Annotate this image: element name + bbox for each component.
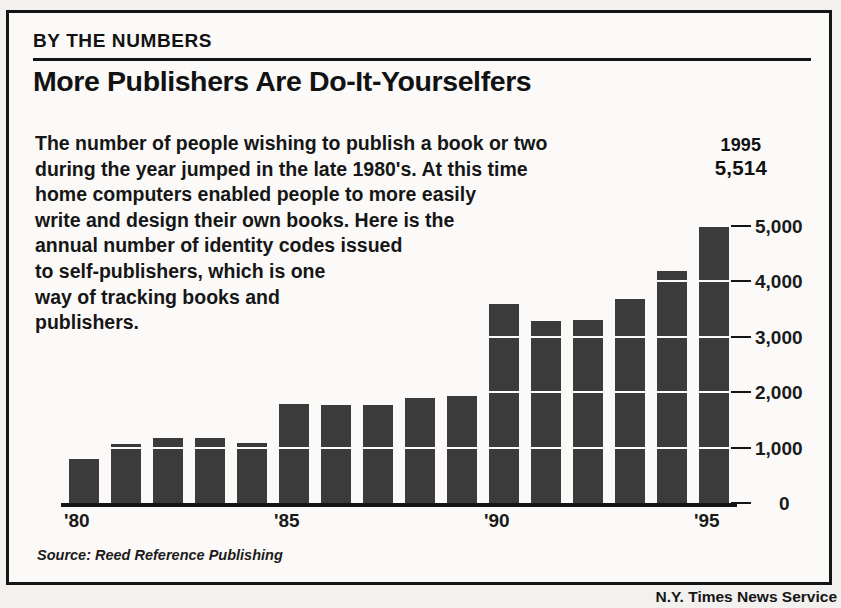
y-axis-label: 4,000 bbox=[755, 272, 803, 291]
y-axis-label: 1,000 bbox=[755, 439, 803, 458]
body-line: during the year jumped in the late 1980'… bbox=[35, 157, 575, 183]
x-axis-line bbox=[61, 503, 737, 507]
x-axis-label: '80 bbox=[64, 510, 90, 532]
y-axis-label: 5,000 bbox=[755, 217, 803, 236]
body-line: publishers. bbox=[35, 310, 575, 336]
body-line: write and design their own books. Here i… bbox=[35, 208, 575, 234]
callout-value: 5,514 bbox=[715, 156, 767, 179]
y-axis-label: 0 bbox=[779, 494, 790, 513]
body-line: home computers enabled people to more ea… bbox=[35, 182, 575, 208]
body-line: annual number of identity codes issued bbox=[35, 233, 575, 259]
bar bbox=[615, 299, 644, 503]
body-line: way of tracking books and bbox=[35, 285, 575, 311]
gridline bbox=[61, 391, 737, 393]
bar bbox=[573, 320, 602, 503]
x-axis-label: '90 bbox=[484, 510, 510, 532]
gridline bbox=[61, 336, 737, 338]
bar bbox=[321, 405, 350, 503]
y-axis-tick bbox=[731, 447, 751, 449]
body-copy: The number of people wishing to publish … bbox=[35, 131, 575, 336]
gridline bbox=[61, 447, 737, 449]
bar bbox=[111, 444, 140, 503]
y-axis-tick bbox=[731, 225, 751, 227]
body-line: to self-publishers, which is one bbox=[35, 259, 575, 285]
y-axis-tick bbox=[731, 391, 751, 393]
bar bbox=[657, 271, 686, 503]
bar bbox=[447, 396, 476, 503]
bar bbox=[405, 398, 434, 503]
infographic-panel: BY THE NUMBERS More Publishers Are Do-It… bbox=[6, 10, 832, 585]
body-line: The number of people wishing to publish … bbox=[35, 131, 575, 157]
bar bbox=[279, 404, 308, 503]
bar bbox=[531, 321, 560, 503]
data-callout: 1995 5,514 bbox=[715, 135, 767, 179]
bar bbox=[69, 459, 98, 503]
bar bbox=[363, 405, 392, 503]
bar bbox=[699, 227, 728, 503]
news-service-credit: N.Y. Times News Service bbox=[655, 588, 837, 606]
y-axis-tick bbox=[731, 280, 751, 282]
y-axis-label: 3,000 bbox=[755, 328, 803, 347]
y-axis-label: 2,000 bbox=[755, 383, 803, 402]
callout-year: 1995 bbox=[715, 135, 767, 156]
y-axis-tick bbox=[731, 502, 751, 504]
y-axis-tick bbox=[731, 336, 751, 338]
x-axis-label: '85 bbox=[274, 510, 300, 532]
x-axis-label: '95 bbox=[694, 510, 720, 532]
bar bbox=[237, 443, 266, 503]
source-note: Source: Reed Reference Publishing bbox=[37, 547, 283, 563]
